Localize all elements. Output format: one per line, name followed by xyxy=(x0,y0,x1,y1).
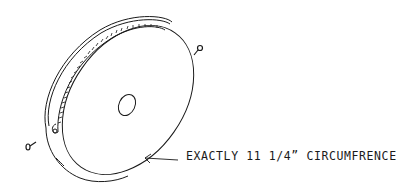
screw-hole xyxy=(53,129,57,133)
center-hole xyxy=(115,92,139,119)
screw-left-icon xyxy=(26,142,36,150)
scale-ticks xyxy=(58,24,157,123)
leader-arrow xyxy=(145,154,178,163)
screw-right-icon xyxy=(194,46,203,56)
circumference-annotation: EXACTLY 11 1/4” CIRCUMFRENCE xyxy=(186,149,397,163)
